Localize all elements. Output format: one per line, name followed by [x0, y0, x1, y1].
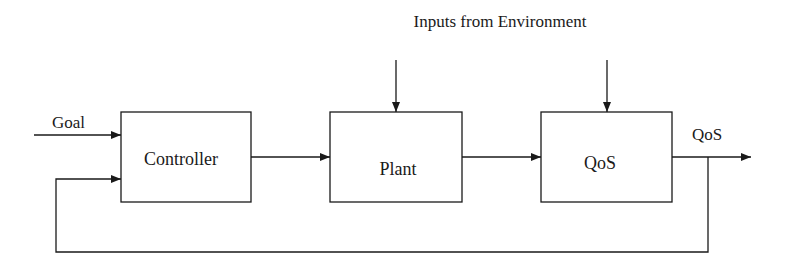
plant-label: Plant	[379, 159, 416, 179]
feedback-control-diagram: Inputs from Environment Controller Plant…	[0, 0, 785, 274]
controller-label: Controller	[144, 149, 218, 169]
plant-block: Plant	[330, 112, 462, 202]
goal-label: Goal	[52, 113, 85, 132]
qos-block: QoS	[541, 112, 672, 202]
qos-block-label: QoS	[584, 153, 616, 173]
qos-output-label: QoS	[692, 125, 722, 144]
controller-block: Controller	[121, 112, 251, 202]
inputs-from-environment-label: Inputs from Environment	[414, 12, 587, 31]
